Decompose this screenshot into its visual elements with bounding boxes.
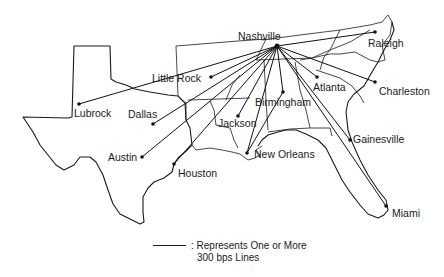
city-dot [172, 162, 176, 166]
city-dot [245, 151, 249, 155]
connection-line [277, 46, 350, 140]
city-label: Little Rock [152, 73, 201, 84]
city-dot [151, 122, 155, 126]
connection-line [277, 32, 375, 46]
city-label: Nashville [238, 31, 281, 42]
city-dot [373, 30, 377, 34]
city-dot [209, 75, 213, 79]
city-dot [77, 102, 81, 106]
city-label: Raleigh [368, 38, 404, 49]
city-label: Lubrock [74, 108, 111, 119]
city-label: Charleston [379, 86, 430, 97]
city-label: New Orleans [254, 149, 315, 160]
city-label: Atlanta [313, 82, 346, 93]
city-dot [384, 204, 388, 208]
legend-line1: : Represents One or More [191, 240, 307, 252]
city-label: Gainesville [353, 134, 404, 145]
city-label: Jackson [218, 118, 257, 129]
city-label: Dallas [128, 109, 157, 120]
city-label: Miami [392, 208, 420, 219]
connection-line [277, 46, 386, 206]
legend-line2: 300 bps Lines [191, 252, 307, 264]
city-dot [315, 75, 319, 79]
city-dot [140, 155, 144, 159]
city-label: Austin [108, 152, 137, 163]
city-label: Houston [178, 168, 217, 179]
legend-text: : Represents One or More 300 bps Lines [191, 240, 307, 264]
city-label: Birmingham [255, 97, 311, 108]
legend-line-symbol [153, 245, 186, 246]
city-dot [281, 90, 285, 94]
city-dot [348, 138, 352, 142]
city-dot [275, 44, 280, 49]
connection-line [211, 46, 277, 77]
city-dot [373, 80, 377, 84]
